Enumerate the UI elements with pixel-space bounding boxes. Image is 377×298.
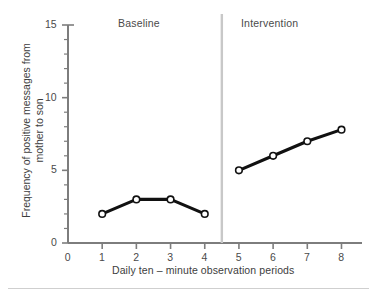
x-tick-label: 7 [304, 251, 310, 263]
bottom-divider-rule [8, 288, 369, 289]
y-tick-label: 15 [45, 18, 57, 30]
y-tick-label: 5 [51, 163, 57, 175]
phase-label-intervention: Intervention [241, 17, 298, 29]
y-axis-title: Frequency of positive messages from moth… [20, 36, 45, 226]
x-tick-label: 5 [236, 251, 242, 263]
y-tick-label: 10 [45, 91, 57, 103]
x-tick-label: 1 [99, 251, 105, 263]
phase-label-baseline: Baseline [118, 17, 160, 29]
figure-container: 051015 012345678 Baseline Intervention D… [0, 0, 377, 298]
x-tick-label: 6 [270, 251, 276, 263]
x-axis-title: Daily ten – minute observation periods [112, 264, 294, 276]
y-tick-label: 0 [51, 236, 57, 248]
x-tick-label: 3 [167, 251, 173, 263]
x-tick-label: 8 [338, 251, 344, 263]
x-tick-label: 4 [202, 251, 208, 263]
y-axis-title-line2: mother to son [32, 98, 44, 162]
x-tick-label: 0 [65, 251, 71, 263]
y-axis-title-line1: Frequency of positive messages from [20, 43, 32, 218]
line-chart [0, 0, 377, 298]
x-tick-label: 2 [133, 251, 139, 263]
